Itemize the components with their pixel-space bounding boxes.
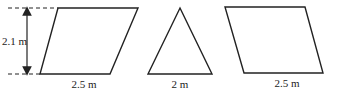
base-label-left: 2.5 m [71,78,97,90]
triangle-middle: 2 m [148,8,212,90]
parallelogram-left: 2.1 m 2.5 m [2,8,138,90]
base-label-right: 2.5 m [274,77,300,89]
base-label-triangle: 2 m [172,78,189,90]
height-label: 2.1 m [2,35,28,47]
shapes-diagram: 2.1 m 2.5 m 2 m 2.5 m [0,0,342,97]
parallelogram-right: 2.5 m [225,7,323,89]
